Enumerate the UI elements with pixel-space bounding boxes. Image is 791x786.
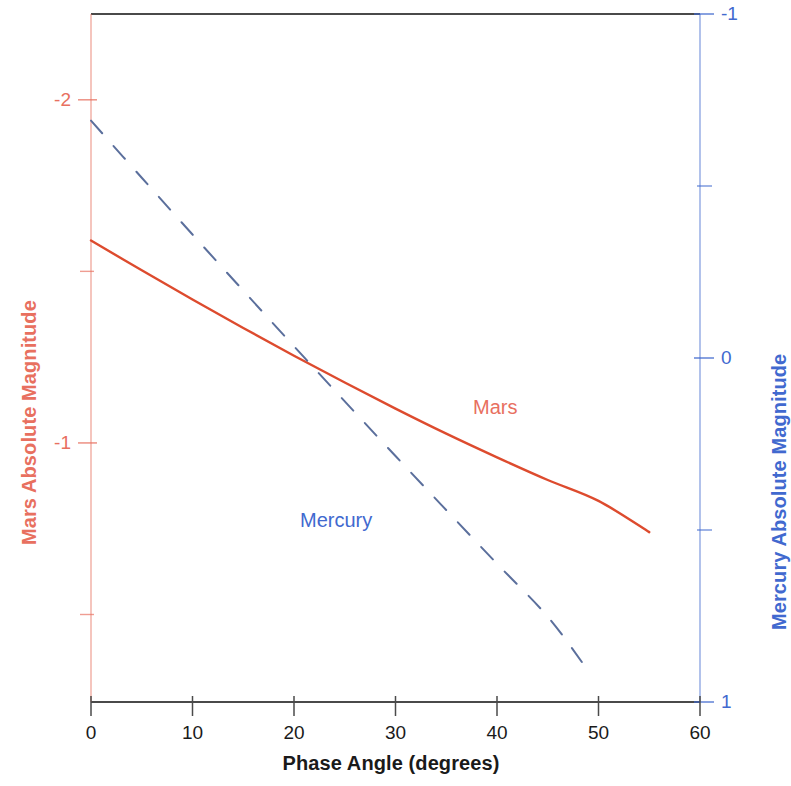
plot-frame: [91, 14, 700, 702]
series-annotation-mars: Mars: [473, 396, 517, 419]
y-right-tick-0: 0: [721, 347, 732, 369]
data-series: [91, 121, 649, 671]
y-left-tick--2: -2: [54, 89, 71, 111]
x-tick-60: 60: [689, 722, 710, 744]
axis-ticks: [78, 14, 714, 716]
x-tick-10: 10: [182, 722, 203, 744]
x-axis-title: Phase Angle (degrees): [0, 752, 782, 775]
y-axis-left-title: Mars Absolute Magnitude: [18, 300, 41, 545]
series-annotation-mercury: Mercury: [300, 509, 372, 532]
y-left-tick--1: -1: [54, 432, 71, 454]
y-right-tick--1: -1: [721, 3, 738, 25]
x-tick-20: 20: [283, 722, 304, 744]
x-tick-30: 30: [385, 722, 406, 744]
y-right-tick-1: 1: [721, 691, 732, 713]
x-tick-0: 0: [86, 722, 97, 744]
x-tick-50: 50: [588, 722, 609, 744]
y-axis-right-title: Mercury Absolute Magnitude: [768, 354, 791, 630]
series-line-mars: [91, 240, 649, 532]
x-tick-40: 40: [486, 722, 507, 744]
